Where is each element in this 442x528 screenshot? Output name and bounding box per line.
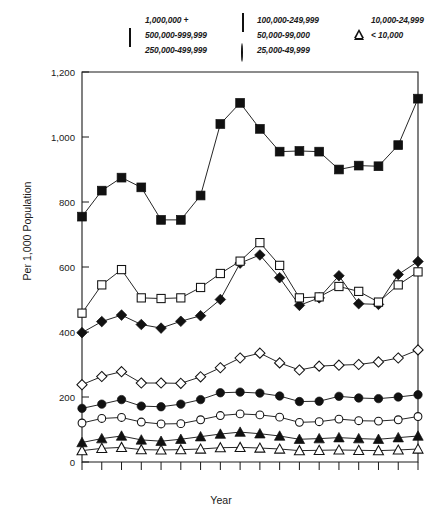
data-point-square-open	[256, 239, 264, 247]
data-point-circle-open	[256, 411, 264, 419]
data-point-diamond-open	[77, 380, 87, 390]
open-triangle-icon	[354, 29, 365, 40]
data-point-square-open	[394, 281, 402, 289]
filled-circle-icon	[240, 29, 251, 40]
data-point-triangle-filled	[334, 432, 344, 441]
filled-square-icon	[128, 14, 139, 25]
series-circle-filled	[78, 388, 422, 413]
data-point-diamond-open	[116, 367, 126, 377]
series-line	[82, 350, 418, 385]
data-point-diamond-filled	[195, 310, 206, 321]
data-point-square-filled	[255, 124, 264, 133]
data-point-square-open	[414, 268, 422, 276]
legend-label: 1,000,000 +	[145, 15, 188, 25]
data-point-triangle-filled	[116, 431, 126, 440]
data-point-square-open	[157, 294, 165, 302]
data-point-square-filled	[117, 173, 126, 182]
data-point-circle-open	[118, 414, 126, 422]
x-tick-label: 1976	[131, 474, 152, 476]
series-diamond-filled	[77, 250, 424, 338]
data-point-circle-filled	[196, 395, 204, 403]
data-point-diamond-open	[413, 345, 423, 355]
data-point-circle-filled	[275, 392, 283, 400]
legend-label: 500,000-999,999	[145, 30, 207, 40]
x-tick-label: 1988	[368, 474, 389, 476]
data-point-circle-open	[216, 412, 224, 420]
data-point-circle-open	[296, 418, 304, 426]
data-point-circle-filled	[117, 395, 125, 403]
chart-plot-area: 02004006008001,0001,20019731976197919821…	[0, 62, 442, 476]
data-point-triangle-open	[235, 442, 245, 451]
data-point-circle-filled	[78, 404, 86, 412]
x-axis-title: Year	[0, 494, 442, 506]
data-point-diamond-open	[255, 348, 265, 358]
data-point-circle-open	[414, 413, 422, 421]
data-point-circle-filled	[157, 403, 165, 411]
legend-label: < 10,000	[371, 30, 403, 40]
data-point-circle-open	[335, 415, 343, 423]
data-point-diamond-open	[314, 361, 324, 371]
data-point-circle-open	[177, 420, 185, 428]
data-point-diamond-open	[275, 358, 285, 368]
series-line	[82, 447, 418, 450]
series-line	[82, 432, 418, 442]
data-point-square-filled	[315, 147, 324, 156]
data-point-square-filled	[196, 191, 205, 200]
legend-label: 25,000-49,999	[257, 45, 310, 55]
data-point-diamond-open	[354, 359, 364, 369]
data-point-diamond-open	[235, 353, 245, 363]
data-point-square-open	[315, 293, 323, 301]
y-tick-label: 800	[59, 197, 75, 208]
data-point-diamond-filled	[116, 310, 127, 321]
series-line	[82, 392, 418, 408]
x-tick-label: 1979	[190, 474, 211, 476]
data-point-square-open	[374, 298, 382, 306]
data-point-square-open	[355, 287, 363, 295]
data-point-square-open	[295, 294, 303, 302]
data-point-diamond-open	[334, 360, 344, 370]
data-point-square-filled	[78, 212, 87, 221]
data-point-circle-open	[197, 416, 205, 424]
legend-entry: 1,000,000 +	[128, 12, 240, 27]
data-point-square-filled	[374, 162, 383, 171]
data-point-circle-open	[157, 420, 165, 428]
legend-entry: < 10,000	[354, 27, 442, 42]
y-tick-label: 400	[59, 327, 75, 338]
series-triangle-filled	[77, 427, 423, 447]
filled-diamond-icon	[128, 44, 139, 55]
legend-label: 50,000-99,000	[257, 30, 310, 40]
x-tick-label: 1973	[71, 474, 92, 476]
data-point-triangle-open	[334, 445, 344, 454]
data-point-circle-open	[375, 417, 383, 425]
page-caption-fragment	[0, 517, 442, 528]
data-point-square-open	[196, 283, 204, 291]
open-circle-icon-shape	[241, 43, 243, 62]
legend-entry: 500,000-999,999	[128, 27, 240, 42]
legend-entry: 25,000-49,999	[240, 42, 354, 57]
data-point-diamond-filled	[215, 294, 226, 305]
open-diamond-icon	[240, 14, 251, 25]
data-point-diamond-open	[195, 372, 205, 382]
data-point-square-open	[137, 294, 145, 302]
series-square-filled	[78, 94, 423, 224]
y-tick-label: 200	[59, 392, 75, 403]
data-point-square-filled	[176, 215, 185, 224]
data-point-diamond-filled	[413, 256, 424, 267]
series-diamond-open	[77, 345, 423, 390]
data-point-circle-filled	[394, 393, 402, 401]
data-point-diamond-filled	[353, 298, 364, 309]
data-point-square-open	[276, 261, 284, 269]
data-point-circle-open	[98, 415, 106, 423]
data-point-square-filled	[335, 165, 344, 174]
series-line	[82, 414, 418, 424]
series-triangle-open	[77, 442, 423, 454]
data-point-circle-filled	[236, 388, 244, 396]
data-point-circle-filled	[137, 402, 145, 410]
legend-entry: 10,000-24,999	[354, 12, 442, 27]
series-line	[82, 255, 418, 333]
series-circle-open	[78, 410, 422, 428]
x-tick-label: 1982	[249, 474, 270, 476]
data-point-circle-open	[276, 413, 284, 421]
data-point-diamond-filled	[77, 327, 88, 338]
data-point-diamond-open	[156, 378, 166, 388]
